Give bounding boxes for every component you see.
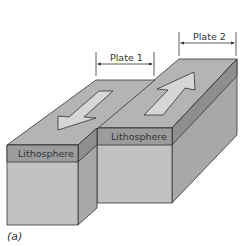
figure-caption: (a) <box>7 230 22 243</box>
plate1-label: Plate 1 <box>110 52 143 63</box>
lithosphere-left-label: Lithosphere <box>18 148 74 159</box>
lithosphere-right-label: Lithosphere <box>111 131 167 142</box>
plate2-label: Plate 2 <box>193 31 226 42</box>
